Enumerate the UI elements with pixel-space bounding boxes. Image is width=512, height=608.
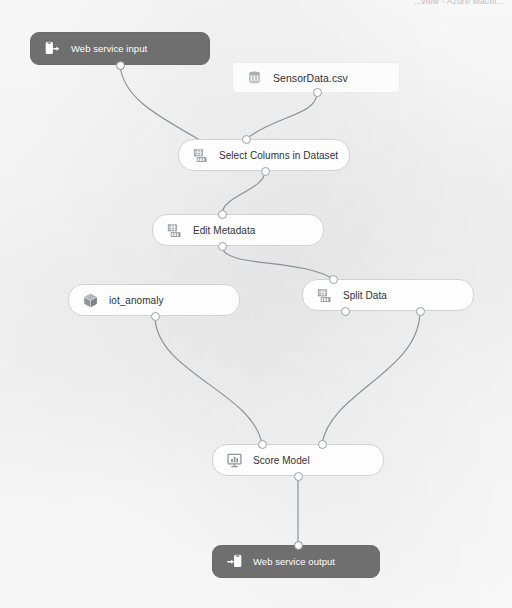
web-service-output-icon	[224, 552, 244, 572]
port-out-edit-metadata[interactable]	[218, 242, 227, 251]
trained-model-icon	[80, 290, 100, 310]
wire-editmetadata-to-splitdata	[222, 246, 333, 279]
wire-webserviceinput-to-selectcolumns	[120, 66, 200, 140]
port-out-iot-anomaly[interactable]	[151, 312, 160, 321]
wire-iotanomaly-to-scoremodel	[155, 316, 262, 444]
node-web-service-output[interactable]: Web service output	[212, 545, 380, 578]
port-in-web-service-output[interactable]	[294, 541, 303, 550]
port-out1-split-data[interactable]	[341, 307, 350, 316]
port-in-edit-metadata[interactable]	[218, 210, 227, 219]
port-out-sensordata-csv[interactable]	[313, 88, 322, 97]
port-in1-score-model[interactable]	[258, 440, 267, 449]
node-label-select-columns-in-dataset: Select Columns in Dataset	[219, 150, 338, 161]
node-label-web-service-output: Web service output	[253, 556, 335, 567]
port-in-select-columns-in-dataset[interactable]	[242, 135, 251, 144]
score-model-icon	[224, 450, 244, 470]
node-split-data[interactable]: Split Data	[302, 279, 474, 311]
experiment-canvas[interactable]: ...view - Azure Machi...	[0, 0, 512, 608]
breadcrumb: ...view - Azure Machi...	[414, 0, 504, 6]
node-label-iot-anomaly: iot_anomaly	[109, 295, 163, 306]
node-edit-metadata[interactable]: Edit Metadata	[152, 214, 324, 246]
header-breadcrumb-strip: ...view - Azure Machi...	[0, 0, 512, 12]
dataset-icon	[244, 68, 264, 88]
web-service-input-icon	[42, 39, 62, 59]
node-label-score-model: Score Model	[253, 455, 310, 466]
data-transformation-icon	[190, 145, 210, 165]
port-out-select-columns-in-dataset[interactable]	[261, 167, 270, 176]
wire-selectcolumns-to-editmetadata	[222, 171, 265, 214]
port-out-web-service-input[interactable]	[116, 61, 125, 70]
port-out-score-model[interactable]	[294, 472, 303, 481]
data-transformation-icon	[314, 285, 334, 305]
port-out2-split-data[interactable]	[416, 307, 425, 316]
node-label-web-service-input: Web service input	[71, 43, 147, 54]
wire-sensordata-to-selectcolumns	[246, 93, 317, 139]
port-in-split-data[interactable]	[329, 275, 338, 284]
wire-splitdata-to-scoremodel	[322, 311, 420, 444]
node-label-split-data: Split Data	[343, 290, 387, 301]
data-transformation-icon	[164, 220, 184, 240]
port-in2-score-model[interactable]	[318, 440, 327, 449]
node-label-edit-metadata: Edit Metadata	[193, 225, 255, 236]
node-label-sensordata-csv: SensorData.csv	[273, 72, 348, 84]
